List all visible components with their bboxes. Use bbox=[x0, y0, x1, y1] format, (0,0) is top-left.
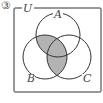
venn-diagram: U A B C bbox=[0, 0, 103, 103]
set-label-c: C bbox=[83, 72, 92, 85]
universe-label: U bbox=[23, 2, 33, 15]
set-label-a: A bbox=[53, 8, 62, 21]
set-label-b: B bbox=[26, 72, 35, 85]
